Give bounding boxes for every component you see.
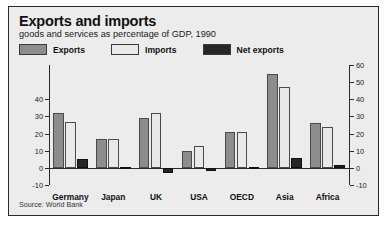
chart-screenshot: Exports and imports goods and services a… [0, 0, 389, 228]
x-axis-label-africa: Africa [306, 192, 349, 202]
y-tick-left-40 [45, 99, 49, 100]
bar-group-uk [139, 65, 174, 185]
y-tick-label-left--10: -10 [32, 181, 43, 190]
chart-panel: Exports and imports goods and services a… [8, 6, 379, 216]
y-tick-left-20 [45, 134, 49, 135]
y-tick-label-right-50: 50 [356, 78, 364, 87]
y-tick-label-left-40: 40 [35, 95, 43, 104]
bar-group-africa [310, 65, 345, 185]
legend-swatch-icon [111, 44, 139, 55]
bar-imports-oecd [237, 132, 248, 168]
legend-label: Exports [53, 45, 85, 55]
bar-imports-germany [65, 122, 76, 168]
x-axis-label-usa: USA [178, 192, 221, 202]
legend-item-imports: Imports [111, 44, 177, 55]
y-tick-right-10 [350, 151, 354, 152]
y-tick-right-0 [350, 168, 354, 169]
bar-net-exports-oecd [249, 167, 260, 169]
y-tick-label-right-60: 60 [356, 61, 364, 70]
chart-subtitle: goods and services as percentage of GDP,… [19, 29, 216, 39]
y-tick-right-20 [350, 134, 354, 135]
legend-label: Imports [145, 45, 177, 55]
x-axis-label-oecd: OECD [220, 192, 263, 202]
y-tick-label-right--10: -10 [356, 181, 367, 190]
y-tick-label-left-30: 30 [35, 112, 43, 121]
bar-net-exports-germany [77, 159, 88, 168]
y-tick-left-0 [45, 168, 49, 169]
y-tick-label-left-0: 0 [39, 164, 43, 173]
plot-inner [49, 65, 349, 185]
chart-legend: ExportsImportsNet exports [19, 44, 310, 55]
y-tick-right-50 [350, 82, 354, 83]
x-axis-label-germany: Germany [49, 192, 92, 202]
bar-imports-asia [279, 87, 290, 168]
bar-exports-usa [182, 151, 193, 168]
y-tick-label-right-10: 10 [356, 147, 364, 156]
legend-swatch-icon [203, 44, 231, 55]
y-axis-left: 403020100-10 [49, 65, 50, 185]
bar-exports-japan [96, 139, 107, 168]
y-tick-right-40 [350, 99, 354, 100]
legend-item-net-exports: Net exports [203, 44, 284, 55]
bar-net-exports-asia [291, 158, 302, 168]
bar-imports-usa [194, 146, 205, 168]
y-tick-left-10 [45, 151, 49, 152]
y-tick-right-30 [350, 116, 354, 117]
x-axis-label-uk: UK [135, 192, 178, 202]
y-tick-left--10 [45, 185, 49, 186]
y-axis-right: 6050403020100-10 [349, 65, 350, 185]
y-tick-label-right-0: 0 [356, 164, 360, 173]
bar-group-japan [96, 65, 131, 185]
bar-exports-germany [53, 113, 64, 168]
bar-group-oecd [225, 65, 260, 185]
y-tick-label-left-20: 20 [35, 130, 43, 139]
bar-group-asia [267, 65, 302, 185]
legend-label: Net exports [237, 45, 284, 55]
bar-exports-oecd [225, 132, 236, 168]
x-axis-label-japan: Japan [92, 192, 135, 202]
y-tick-label-right-40: 40 [356, 95, 364, 104]
bar-imports-africa [322, 127, 333, 168]
bar-net-exports-japan [120, 167, 131, 169]
y-tick-right--10 [350, 185, 354, 186]
legend-item-exports: Exports [19, 44, 85, 55]
chart-title: Exports and imports [19, 13, 156, 29]
bar-net-exports-africa [334, 165, 345, 168]
bar-exports-africa [310, 123, 321, 168]
plot-area [49, 65, 349, 185]
bar-exports-uk [139, 118, 150, 168]
bar-group-germany [53, 65, 88, 185]
bar-net-exports-usa [206, 168, 217, 171]
y-tick-label-right-30: 30 [356, 112, 364, 121]
bar-imports-japan [108, 139, 119, 168]
y-tick-left-30 [45, 116, 49, 117]
bar-imports-uk [151, 113, 162, 168]
y-tick-right-60 [350, 65, 354, 66]
y-tick-label-right-20: 20 [356, 130, 364, 139]
bar-net-exports-uk [163, 168, 174, 173]
bar-group-usa [182, 65, 217, 185]
y-tick-label-left-10: 10 [35, 147, 43, 156]
bar-exports-asia [267, 74, 278, 168]
legend-swatch-icon [19, 44, 47, 55]
x-axis-label-asia: Asia [263, 192, 306, 202]
